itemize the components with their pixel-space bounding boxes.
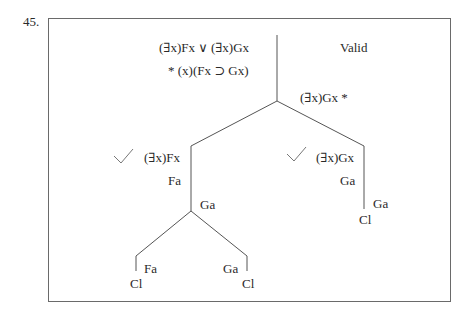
right-instance: Ga	[340, 174, 355, 187]
left-instance: Fa	[168, 174, 181, 187]
sub-right-close: Cl	[242, 277, 254, 290]
sub-right-formula: Ga	[223, 262, 238, 275]
premise-1: (∃x)Fx ∨ (∃x)Gx	[159, 41, 249, 54]
premise-2: * (x)(Fx ⊃ Gx)	[168, 64, 249, 77]
sub-left-formula: Fa	[144, 262, 157, 275]
left-split-label: Ga	[200, 198, 215, 211]
right-formula: (∃x)Gx	[316, 151, 354, 164]
verdict-label: Valid	[340, 41, 367, 54]
sub-left-close: Cl	[130, 277, 142, 290]
right-extra: Ga	[373, 197, 388, 210]
right-close: Cl	[359, 213, 371, 226]
left-formula: (∃x)Fx	[144, 151, 180, 164]
negated-conclusion: (∃x)Gx *	[300, 91, 348, 104]
